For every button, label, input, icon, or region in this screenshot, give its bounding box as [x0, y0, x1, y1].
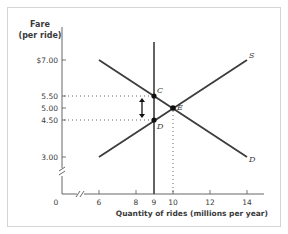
y-tick-7: $7.00: [37, 56, 59, 65]
x-zero-label: 0: [54, 198, 59, 207]
point-e: [170, 105, 176, 111]
y-axis-title-line2: (per ride): [18, 31, 61, 40]
point-d-label: D: [156, 122, 164, 131]
x-axis-break-icon: [76, 191, 84, 197]
y-tick-3-00: 3.00: [41, 153, 58, 162]
x-tick-9: 9: [152, 198, 157, 207]
y-tick-5-00: 5.00: [41, 104, 58, 113]
double-arrow-icon: [139, 98, 145, 118]
x-tick-14: 14: [242, 198, 252, 207]
x-tick-12: 12: [205, 198, 215, 207]
y-axis-break-icon: [59, 167, 65, 175]
point-e-label: E: [176, 103, 183, 112]
y-axis: [59, 27, 66, 194]
x-tick-8: 8: [134, 198, 139, 207]
supply-demand-chart: Fare (per ride) $7.00 5.50 5.00 4.50 3.0…: [0, 0, 288, 234]
point-c: [151, 93, 156, 98]
point-c-label: C: [157, 86, 163, 95]
y-tick-5-50: 5.50: [41, 92, 58, 101]
point-d: [151, 117, 156, 122]
y-axis-title-line1: Fare: [30, 20, 50, 29]
supply-label: S: [249, 51, 255, 60]
y-tick-4-50: 4.50: [41, 116, 58, 125]
x-axis-title: Quantity of rides (millions per year): [116, 209, 268, 218]
demand-label: D: [248, 155, 256, 164]
x-axis: [62, 190, 264, 197]
x-tick-6: 6: [97, 198, 102, 207]
x-tick-10: 10: [168, 198, 178, 207]
